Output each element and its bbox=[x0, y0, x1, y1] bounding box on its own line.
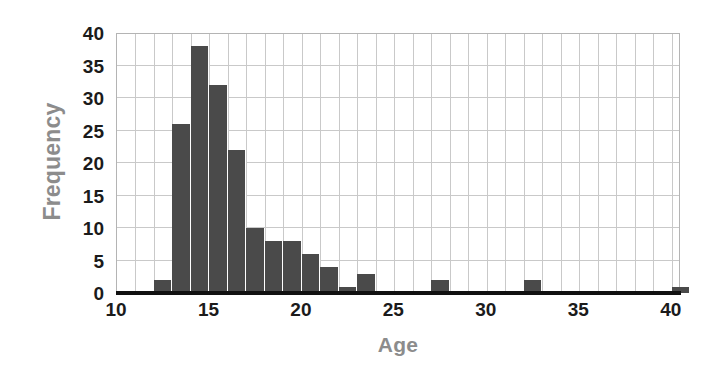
histogram-bar bbox=[228, 150, 246, 293]
x-tick-label: 25 bbox=[363, 299, 423, 322]
y-tick-label: 10 bbox=[56, 219, 104, 238]
histogram-bar bbox=[246, 228, 264, 293]
x-axis-title: Age bbox=[116, 333, 680, 357]
x-tick-label: 35 bbox=[548, 299, 608, 322]
x-tick-label: 30 bbox=[456, 299, 516, 322]
histogram-bar bbox=[265, 241, 283, 293]
y-tick-label: 40 bbox=[56, 24, 104, 43]
histogram-bar bbox=[283, 241, 301, 293]
histogram-bar bbox=[320, 267, 338, 293]
y-tick-label: 35 bbox=[56, 56, 104, 75]
histogram-bar bbox=[172, 124, 190, 293]
x-axis-tick-labels: 10152025303540 bbox=[116, 299, 680, 327]
y-tick-label: 25 bbox=[56, 121, 104, 140]
y-tick-label: 30 bbox=[56, 89, 104, 108]
x-tick-label: 15 bbox=[178, 299, 238, 322]
x-tick-label: 20 bbox=[271, 299, 331, 322]
histogram-bar bbox=[302, 254, 320, 293]
histogram-figure: Frequency 0510152025303540 1015202530354… bbox=[0, 0, 714, 379]
plot-area bbox=[116, 33, 680, 293]
x-tick-label: 10 bbox=[86, 299, 146, 322]
bar-series bbox=[117, 34, 679, 293]
y-tick-label: 15 bbox=[56, 186, 104, 205]
y-tick-label: 20 bbox=[56, 154, 104, 173]
x-tick-label: 40 bbox=[641, 299, 701, 322]
x-axis-line bbox=[116, 291, 681, 295]
y-axis-tick-labels: 0510152025303540 bbox=[56, 33, 104, 293]
histogram-bar bbox=[209, 85, 227, 293]
y-tick-label: 5 bbox=[56, 251, 104, 270]
histogram-bar bbox=[191, 46, 209, 293]
